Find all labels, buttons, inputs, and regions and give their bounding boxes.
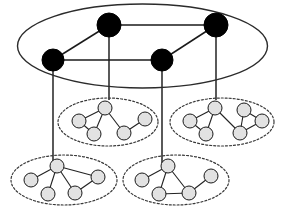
top-right-cluster-node-c2n5[interactable] xyxy=(237,103,251,117)
bottom-left-cluster-node-c3n5[interactable] xyxy=(91,170,105,184)
cluster-bottom-right-cluster xyxy=(123,155,229,205)
cluster-bottom-left-cluster xyxy=(11,155,117,205)
top-right-cluster-node-c2n4[interactable] xyxy=(233,126,247,140)
top-left-cluster-node-c1n5[interactable] xyxy=(138,112,152,126)
cluster-top-right-cluster xyxy=(170,98,274,146)
network-diagram xyxy=(0,0,285,211)
top-level-boundary-ellipse xyxy=(18,4,268,88)
top-level-edge-layer xyxy=(53,25,216,60)
top-level-boundary-group xyxy=(18,4,268,88)
super-node-D[interactable] xyxy=(204,13,228,37)
top-right-cluster-node-c2n2[interactable] xyxy=(183,114,197,128)
bottom-right-cluster-node-c4n3[interactable] xyxy=(152,187,166,201)
super-node-C[interactable] xyxy=(151,49,173,71)
bottom-right-cluster-node-c4n2[interactable] xyxy=(135,173,149,187)
bottom-left-cluster-node-c3n2[interactable] xyxy=(24,173,38,187)
top-left-cluster-node-c1n2[interactable] xyxy=(72,114,86,128)
bottom-right-cluster-node-c4n5[interactable] xyxy=(204,169,218,183)
super-node-B[interactable] xyxy=(97,13,121,37)
top-right-cluster-node-c2n3[interactable] xyxy=(199,127,213,141)
cluster-layer xyxy=(11,98,274,205)
top-level-node-layer xyxy=(42,13,228,71)
bottom-left-cluster-node-c3n1[interactable] xyxy=(50,159,64,173)
bottom-left-cluster-node-c3n4[interactable] xyxy=(68,186,82,200)
super-node-A[interactable] xyxy=(42,49,64,71)
bottom-right-cluster-node-c4n4[interactable] xyxy=(182,186,196,200)
network-canvas xyxy=(0,0,285,211)
bottom-right-cluster-node-c4n1[interactable] xyxy=(161,159,175,173)
top-left-cluster-node-c1n1[interactable] xyxy=(98,101,112,115)
top-left-cluster-node-c1n4[interactable] xyxy=(117,126,131,140)
cluster-top-left-cluster xyxy=(58,98,158,146)
top-left-cluster-node-c1n3[interactable] xyxy=(87,127,101,141)
top-right-cluster-node-c2n1[interactable] xyxy=(208,101,222,115)
top-right-cluster-node-c2n6[interactable] xyxy=(255,114,269,128)
bottom-left-cluster-node-c3n3[interactable] xyxy=(41,187,55,201)
